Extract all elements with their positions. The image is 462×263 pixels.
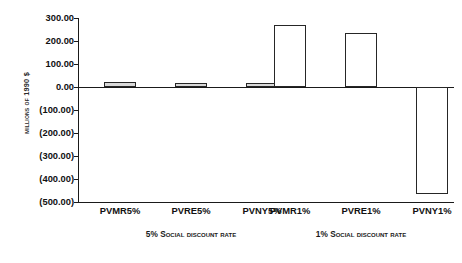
y-tick-mark xyxy=(74,110,79,111)
y-tick-label: 100.00 xyxy=(14,59,74,69)
y-tick-mark xyxy=(74,18,79,19)
category-label-pvny1: PVNY1% xyxy=(412,205,451,216)
bar-pvny1 xyxy=(416,87,448,194)
group-caption-5-percent: 5% Social discount rate xyxy=(146,229,236,239)
category-label-pvre1: PVRE1% xyxy=(341,205,380,216)
y-tick-label: 200.00 xyxy=(14,36,74,46)
bar-pvmr1 xyxy=(274,25,306,88)
y-tick-label: (500.00) xyxy=(14,197,74,207)
bar-pvre1 xyxy=(345,33,377,88)
bar-chart-figure: Millions of 1990 $ 300.00 200.00 100.00 … xyxy=(0,0,462,263)
y-tick-label: (200.00) xyxy=(14,128,74,138)
category-label-pvmr1: PVMR1% xyxy=(270,205,311,216)
y-tick-mark xyxy=(74,41,79,42)
y-tick-mark xyxy=(74,179,79,180)
y-tick-mark xyxy=(74,156,79,157)
x-axis-line xyxy=(78,202,454,203)
y-tick-mark xyxy=(74,133,79,134)
y-tick-mark xyxy=(74,64,79,65)
y-axis-tick-labels: 300.00 200.00 100.00 0.00 (100.00) (200.… xyxy=(12,0,74,263)
bar-pvmr5 xyxy=(104,82,136,87)
y-tick-label: 300.00 xyxy=(14,13,74,23)
bar-pvre5 xyxy=(175,83,207,87)
category-label-pvre5: PVRE5% xyxy=(171,205,210,216)
y-tick-label: (400.00) xyxy=(14,174,74,184)
y-tick-label: (300.00) xyxy=(14,151,74,161)
zero-baseline xyxy=(78,87,454,88)
plot-area xyxy=(78,18,454,202)
category-label-pvmr5: PVMR5% xyxy=(100,205,141,216)
y-tick-label: (100.00) xyxy=(14,105,74,115)
y-tick-label: 0.00 xyxy=(14,82,74,92)
group-caption-1-percent: 1% Social discount rate xyxy=(316,229,406,239)
